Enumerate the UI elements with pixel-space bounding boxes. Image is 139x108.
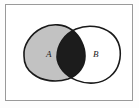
venn-canvas bbox=[0, 0, 139, 108]
set-b-label: B bbox=[93, 50, 99, 59]
venn-diagram-figure: A B bbox=[0, 0, 139, 108]
set-a-label: A bbox=[46, 50, 52, 59]
